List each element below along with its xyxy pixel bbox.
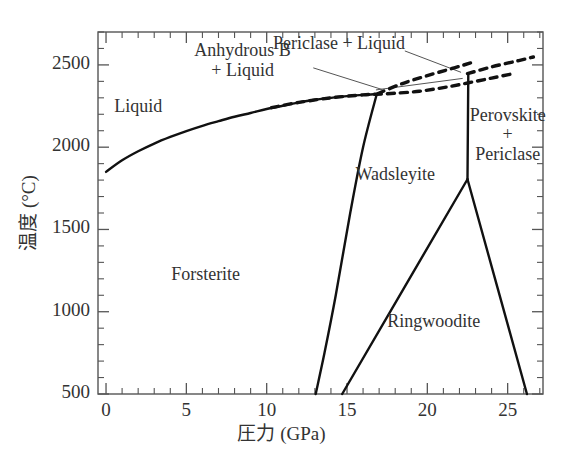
y-tick-label: 1500 [28, 217, 90, 238]
y-tick-label: 2000 [28, 135, 90, 156]
x-axis-title: 圧力 (GPa) [0, 424, 563, 445]
y-axis-title: 温度 (°C) [13, 175, 40, 251]
region-label-line: + [418, 125, 563, 144]
x-tick-label: 10 [237, 400, 297, 421]
region-label-forsterite: Forsterite [116, 265, 296, 284]
region-label-line: Perovskite [418, 106, 563, 125]
x-tick-label: 0 [76, 400, 136, 421]
y-tick-label: 2500 [28, 53, 90, 74]
region-label-wadsleyite: Wadsleyite [305, 165, 485, 184]
region-label-line: Forsterite [116, 265, 296, 284]
phase-diagram-figure: 圧力 (GPa) 温度 (°C) 05101520255001000150020… [0, 0, 563, 454]
region-label-line: Periclase + Liquid [249, 34, 429, 53]
region-label-line: Ringwoodite [344, 312, 524, 331]
x-tick-label: 15 [317, 400, 377, 421]
region-label-ringwoodite: Ringwoodite [344, 312, 524, 331]
y-tick-label: 1000 [28, 300, 90, 321]
x-tick-label: 25 [478, 400, 538, 421]
x-tick-label: 5 [156, 400, 216, 421]
region-label-line: Periclase [418, 145, 563, 164]
phase-boundary-line [467, 57, 533, 74]
phase-boundary-line [342, 179, 467, 394]
region-label-line: + Liquid [153, 61, 333, 80]
phase-boundary-line [467, 179, 526, 394]
region-label-line: Wadsleyite [305, 165, 485, 184]
region-label-periclase-liquid: Periclase + Liquid [249, 34, 429, 53]
region-label-line: Liquid [48, 97, 228, 116]
x-tick-label: 20 [397, 400, 457, 421]
region-label-liquid: Liquid [48, 97, 228, 116]
phase-boundary-line [378, 63, 471, 94]
region-label-perovskite-periclase: Perovskite+Periclase [418, 106, 563, 164]
y-tick-label: 500 [28, 382, 90, 403]
